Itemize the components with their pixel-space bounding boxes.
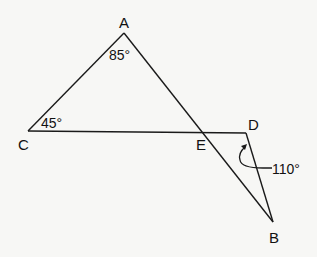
angle-label-c: 45° xyxy=(41,115,62,131)
vertex-label-e: E xyxy=(196,136,206,153)
vertex-label-c: C xyxy=(18,136,29,153)
vertex-label-a: A xyxy=(119,14,129,31)
arrowhead-icon xyxy=(241,144,247,150)
angle-label-d: 110° xyxy=(272,161,300,177)
vertex-label-d: D xyxy=(248,116,259,133)
segment-cd xyxy=(28,131,246,133)
angle-label-a: 85° xyxy=(109,47,130,63)
segment-db xyxy=(246,133,273,222)
vertex-label-b: B xyxy=(269,229,279,246)
geometry-diagram: A C D E B 85° 45° 110° xyxy=(0,0,317,257)
